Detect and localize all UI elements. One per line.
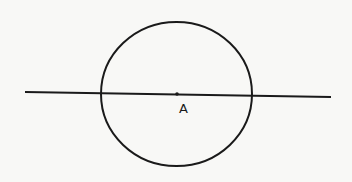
diagram-canvas: A — [0, 0, 352, 182]
point-a-dot — [175, 92, 179, 96]
diagram-svg: A — [0, 0, 352, 182]
point-a-label: A — [179, 101, 188, 116]
